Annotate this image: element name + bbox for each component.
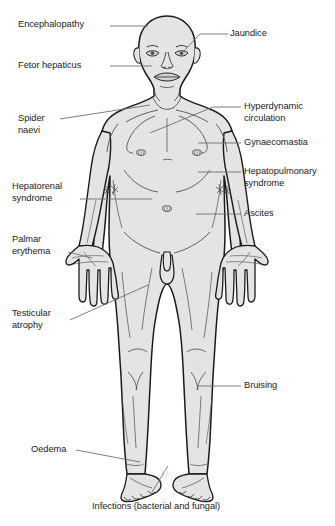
label-hyperdynamic-circulation[interactable]: Hyperdynamic circulation (244, 101, 303, 124)
label-infections[interactable]: Infections (bacterial and fungal) (92, 501, 220, 513)
label-spider-naevi[interactable]: Spider naevi (18, 113, 45, 136)
right-pupil (180, 52, 183, 55)
label-bruising[interactable]: Bruising (244, 380, 277, 392)
label-gynaecomastia[interactable]: Gynaecomastia (244, 137, 308, 149)
body-silhouette (66, 16, 268, 502)
label-hepatorenal-syndrome[interactable]: Hepatorenal syndrome (12, 181, 62, 204)
label-testicular-atrophy[interactable]: Testicular atrophy (12, 308, 51, 331)
left-pupil (151, 52, 154, 55)
penis (163, 252, 171, 271)
body-outline (92, 16, 242, 474)
label-oedema[interactable]: Oedema (31, 444, 66, 456)
label-jaundice[interactable]: Jaundice (230, 28, 267, 40)
left-ear (134, 48, 140, 63)
label-hepatopulmonary-syndrome[interactable]: Hepatopulmonary syndrome (244, 166, 317, 189)
right-ear (194, 48, 200, 63)
right-foot (173, 474, 213, 502)
label-palmar-erythema[interactable]: Palmar erythema (12, 234, 50, 257)
label-ascites[interactable]: Ascites (244, 208, 274, 220)
liver-disease-signs-diagram: Encephalopathy Fetor hepaticus Spider na… (0, 0, 335, 526)
label-fetor-hepaticus[interactable]: Fetor hepaticus (18, 60, 81, 72)
label-encephalopathy[interactable]: Encephalopathy (18, 19, 84, 31)
